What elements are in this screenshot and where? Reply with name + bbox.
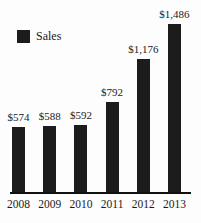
- sales-bar-chart: Sales $574$588$592$792$1,176$1,486 20082…: [0, 0, 201, 223]
- bar-column: $1,176: [128, 43, 159, 192]
- x-axis-label: 2010: [65, 198, 96, 211]
- x-axis-label: 2008: [3, 198, 34, 211]
- bar-value-label: $588: [39, 110, 61, 123]
- bar-value-label: $574: [8, 111, 30, 124]
- bar: [43, 126, 56, 192]
- bar-column: $792: [97, 86, 128, 192]
- x-axis-label: 2013: [159, 198, 190, 211]
- bar-value-label: $792: [101, 86, 123, 99]
- bar-value-label: $1,486: [159, 8, 189, 21]
- bar: [168, 24, 181, 192]
- bar-column: $592: [65, 109, 96, 192]
- bar-column: $574: [3, 111, 34, 192]
- x-axis-line: [10, 192, 191, 194]
- bar-column: $1,486: [159, 8, 190, 192]
- bar-value-label: $592: [70, 109, 92, 122]
- x-axis-label: 2009: [34, 198, 65, 211]
- x-axis-labels: 200820092010201120122013: [3, 198, 190, 211]
- plot-area: $574$588$592$792$1,176$1,486: [3, 0, 190, 192]
- x-axis-label: 2011: [97, 198, 128, 211]
- bar: [12, 127, 25, 192]
- bar: [74, 125, 87, 192]
- bar-value-label: $1,176: [128, 43, 158, 56]
- bar-column: $588: [34, 110, 65, 192]
- x-axis-label: 2012: [128, 198, 159, 211]
- bar: [137, 59, 150, 192]
- bar: [106, 102, 119, 192]
